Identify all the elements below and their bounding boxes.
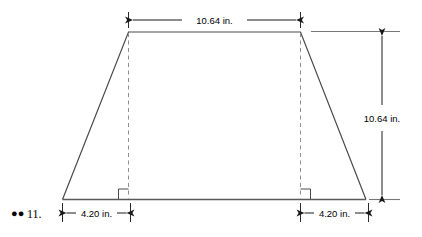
figure-canvas: 10.64 in. 10.64 in. 4.20 in. 4.20 in.	[0, 0, 422, 237]
trapezoid-sides	[63, 32, 367, 200]
bottom-left-offset-dimension: 4.20 in.	[63, 203, 131, 222]
right-angle-marker-right	[301, 189, 311, 199]
top-width-dimension: 10.64 in.	[129, 12, 301, 28]
right-angle-marker-left	[119, 189, 129, 199]
difficulty-bullets-icon: ●●	[11, 207, 24, 219]
bottom-right-offset-dimension: 4.20 in.	[301, 203, 369, 222]
top-width-label: 10.64 in.	[196, 15, 232, 26]
problem-label-group: ●● 11.	[11, 207, 42, 221]
trapezoid-figure: 10.64 in. 10.64 in. 4.20 in. 4.20 in.	[0, 0, 422, 237]
bottom-right-offset-label: 4.20 in.	[319, 208, 350, 219]
bottom-left-offset-label: 4.20 in.	[81, 208, 112, 219]
trapezoid-outline	[63, 32, 367, 200]
problem-number: 11.	[27, 207, 42, 221]
height-label: 10.64 in.	[364, 113, 400, 124]
